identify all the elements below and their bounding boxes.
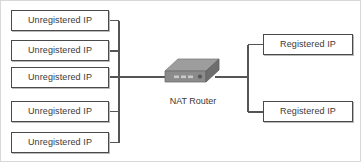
registered-ip-label-2: Registered IP: [280, 107, 336, 116]
unregistered-ip-box-2: Unregistered IP: [11, 40, 109, 61]
router-icon: [164, 58, 220, 92]
registered-ip-box-2: Registered IP: [263, 101, 353, 122]
nat-router-node: [164, 58, 220, 92]
unregistered-ip-label-3: Unregistered IP: [28, 73, 92, 82]
unregistered-ip-box-3: Unregistered IP: [11, 67, 109, 88]
unregistered-ip-label-1: Unregistered IP: [28, 16, 92, 25]
unregistered-ip-label-4: Unregistered IP: [28, 107, 92, 116]
unregistered-ip-box-5: Unregistered IP: [11, 132, 109, 153]
nat-router-diagram: Unregistered IP Unregistered IP Unregist…: [0, 0, 361, 162]
nat-router-label: NAT Router: [151, 96, 235, 106]
unregistered-ip-label-5: Unregistered IP: [28, 138, 92, 147]
registered-ip-label-1: Registered IP: [280, 40, 336, 49]
unregistered-ip-box-1: Unregistered IP: [11, 10, 109, 31]
registered-ip-box-1: Registered IP: [263, 34, 353, 55]
unregistered-ip-box-4: Unregistered IP: [11, 101, 109, 122]
unregistered-ip-label-2: Unregistered IP: [28, 46, 92, 55]
